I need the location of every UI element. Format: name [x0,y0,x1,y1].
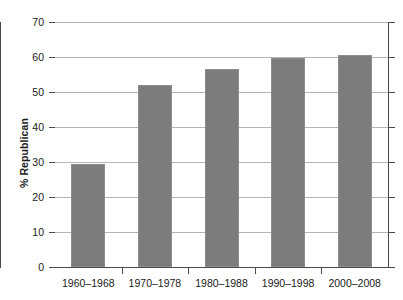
y-axis-tick [49,22,55,23]
y-axis-tick-label: 70 [14,17,44,28]
bar [338,55,372,267]
y-axis-tick-label: 20 [14,192,44,203]
y-axis-tick [49,162,55,163]
y-axis-tick-label: 30 [14,157,44,168]
x-axis-tick [188,268,189,274]
y-axis-tick-right [389,127,395,128]
y-axis-tick-label: 0 [14,262,44,273]
x-axis-line [55,267,389,268]
y-axis-tick [49,57,55,58]
x-axis-tick [321,268,322,274]
bar [271,58,305,267]
y-axis-line [0,22,1,268]
bar [138,85,172,267]
bar [205,69,239,267]
y-axis-tick [49,232,55,233]
y-axis-tick [49,92,55,93]
y-axis-tick-right [389,92,395,93]
bar [71,164,105,267]
right-frame-line [388,22,389,268]
x-axis-tick-label: 2000–2008 [315,277,395,289]
y-axis-tick-right [389,197,395,198]
y-axis-tick-right [389,232,395,233]
y-axis-tick [49,127,55,128]
gridline [55,22,388,23]
bar-chart-figure: % Republican 010203040506070 1960–196819… [0,0,403,300]
y-axis-tick-right [389,162,395,163]
y-axis-tick-right [389,267,395,268]
y-axis-tick [49,197,55,198]
y-axis-tick-right [389,57,395,58]
x-axis-tick [255,268,256,274]
y-axis-tick-right [389,22,395,23]
x-axis-tick [122,268,123,274]
y-axis-tick-label: 10 [14,227,44,238]
y-axis-tick-label: 50 [14,87,44,98]
y-axis-tick-label: 40 [14,122,44,133]
y-axis-tick-label: 60 [14,52,44,63]
